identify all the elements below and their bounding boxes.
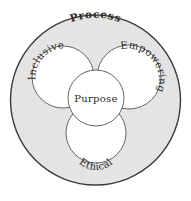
process-diagram: Process Inclusive Empowering Ethical Pur… — [0, 0, 191, 201]
purpose-label: Purpose — [74, 93, 118, 104]
